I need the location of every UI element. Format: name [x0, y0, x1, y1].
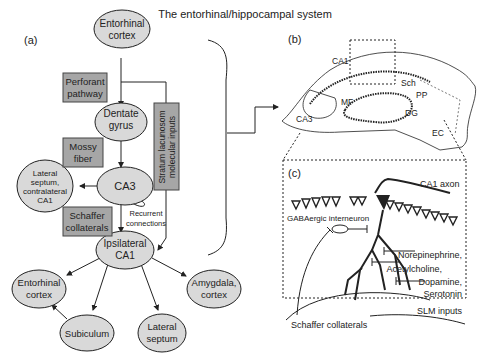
svg-text:Entorhinal: Entorhinal	[99, 18, 144, 29]
pathway-perforant: Perforant pathway	[63, 73, 107, 102]
svg-text:connections: connections	[126, 219, 166, 228]
label-ca3: CA3	[296, 114, 313, 124]
recurrent-connections-label: Recurrent connections	[126, 209, 166, 228]
node-dentate-gyrus: Dentate gyrus	[95, 103, 147, 141]
svg-text:contralateral: contralateral	[23, 187, 67, 196]
svg-text:CA1: CA1	[37, 196, 53, 205]
label-acetylcholine: Acetylcholine,	[386, 264, 442, 274]
svg-text:Stratum lacunosom: Stratum lacunosom	[157, 110, 167, 183]
edge-sub-ec	[52, 305, 67, 319]
panel-b-label: (b)	[288, 33, 301, 45]
svg-text:cortex: cortex	[201, 289, 227, 300]
pathway-schaffer-collaterals: Schaffer collaterals	[63, 207, 112, 236]
label-serotonin: Serotonin	[423, 289, 462, 299]
svg-text:Ipsilateral: Ipsilateral	[104, 238, 147, 249]
node-amygdala-cortex: Amygdala, cortex	[187, 270, 241, 308]
interneuron-soma	[332, 225, 348, 233]
arrow-to-panel-b	[227, 107, 278, 133]
zoom-line-right	[444, 120, 466, 160]
figure-title: The entorhinal/hippocampal system	[158, 8, 332, 20]
label-slm-inputs: SLM inputs	[417, 306, 463, 316]
edge-ca1-ec	[67, 258, 100, 275]
svg-text:cortex: cortex	[26, 289, 52, 300]
node-subiculum: Subiculum	[60, 315, 114, 351]
panel-a-label: (a)	[24, 34, 37, 46]
svg-text:Schaffer: Schaffer	[69, 210, 104, 221]
node-entorhinal-cortex-bottom: Entorhinal cortex	[12, 270, 66, 308]
svg-text:collaterals: collaterals	[66, 222, 109, 233]
panel-c: (c) CA1 axon GABAergic interneuron Norep…	[283, 160, 466, 330]
svg-text:Dentate: Dentate	[103, 108, 138, 119]
panel-c-label: (c)	[288, 167, 301, 179]
svg-text:gyrus: gyrus	[109, 120, 133, 131]
panel-b: (b) CA1 Sch PP MF DG CA3 EC	[282, 33, 476, 160]
pathway-stratum-lacunosum: Stratum lacunosom molecular inputs	[154, 103, 179, 190]
svg-text:septum,: septum,	[31, 178, 59, 187]
label-pp: PP	[416, 90, 428, 100]
perforant-path-line	[420, 80, 460, 135]
label-dopamine: Dopamine,	[418, 277, 462, 287]
dentate-gyrus-layer	[344, 93, 412, 122]
label-ca1-axon: CA1 axon	[420, 179, 460, 189]
svg-text:Lateral: Lateral	[33, 169, 58, 178]
svg-text:Mossy: Mossy	[69, 141, 97, 152]
zoom-line-left	[283, 133, 300, 160]
label-gabaergic-interneuron: GABAergic interneuron	[287, 214, 369, 223]
label-ec: EC	[432, 128, 444, 138]
label-ca1: CA1	[332, 56, 349, 66]
ca1-pyramidal-soma	[376, 195, 390, 210]
svg-text:Recurrent: Recurrent	[130, 209, 164, 218]
svg-text:fiber: fiber	[74, 153, 92, 164]
svg-text:septum: septum	[146, 333, 177, 344]
svg-text:Perforant: Perforant	[65, 76, 104, 87]
node-lateral-septum-contralateral-ca1: Lateral septum, contralateral CA1	[17, 160, 73, 212]
edge-ca1-sub	[93, 264, 108, 310]
svg-text:Subiculum: Subiculum	[65, 328, 109, 339]
node-entorhinal-cortex-top: Entorhinal cortex	[94, 10, 150, 48]
edge-ca1-amyg	[152, 258, 186, 276]
svg-text:Entorhinal: Entorhinal	[18, 277, 61, 288]
label-schaffer-collaterals: Schaffer collaterals	[291, 320, 368, 330]
node-ca3: CA3	[97, 167, 153, 205]
svg-text:pathway: pathway	[67, 88, 103, 99]
label-sch: Sch	[401, 78, 416, 88]
svg-text:molecular inputs: molecular inputs	[167, 116, 177, 178]
hippocampal-diagram: The entorhinal/hippocampal system (a) En…	[0, 0, 489, 363]
slm-input-fiber	[370, 315, 465, 324]
svg-text:cortex: cortex	[108, 30, 135, 41]
label-mf: MF	[341, 97, 353, 107]
edge-ca1-ls	[141, 264, 158, 310]
brace	[208, 40, 227, 255]
svg-text:CA1: CA1	[115, 250, 135, 261]
svg-text:Lateral: Lateral	[147, 321, 176, 332]
label-norepinephrine: Norepinephrine,	[398, 250, 462, 260]
panel-a: (a) Entorhinal cortex Dentate gyrus CA3	[12, 10, 278, 352]
svg-text:Amygdala,: Amygdala,	[192, 277, 237, 288]
node-ipsilateral-ca1: Ipsilateral CA1	[96, 231, 154, 269]
pathway-mossy-fiber: Mossy fiber	[63, 138, 103, 167]
zoom-region-box	[350, 40, 395, 84]
node-lateral-septum: Lateral septum	[138, 314, 186, 352]
label-dg: DG	[405, 108, 418, 118]
svg-text:CA3: CA3	[114, 180, 135, 192]
schaffer-collateral-fiber	[286, 293, 430, 320]
